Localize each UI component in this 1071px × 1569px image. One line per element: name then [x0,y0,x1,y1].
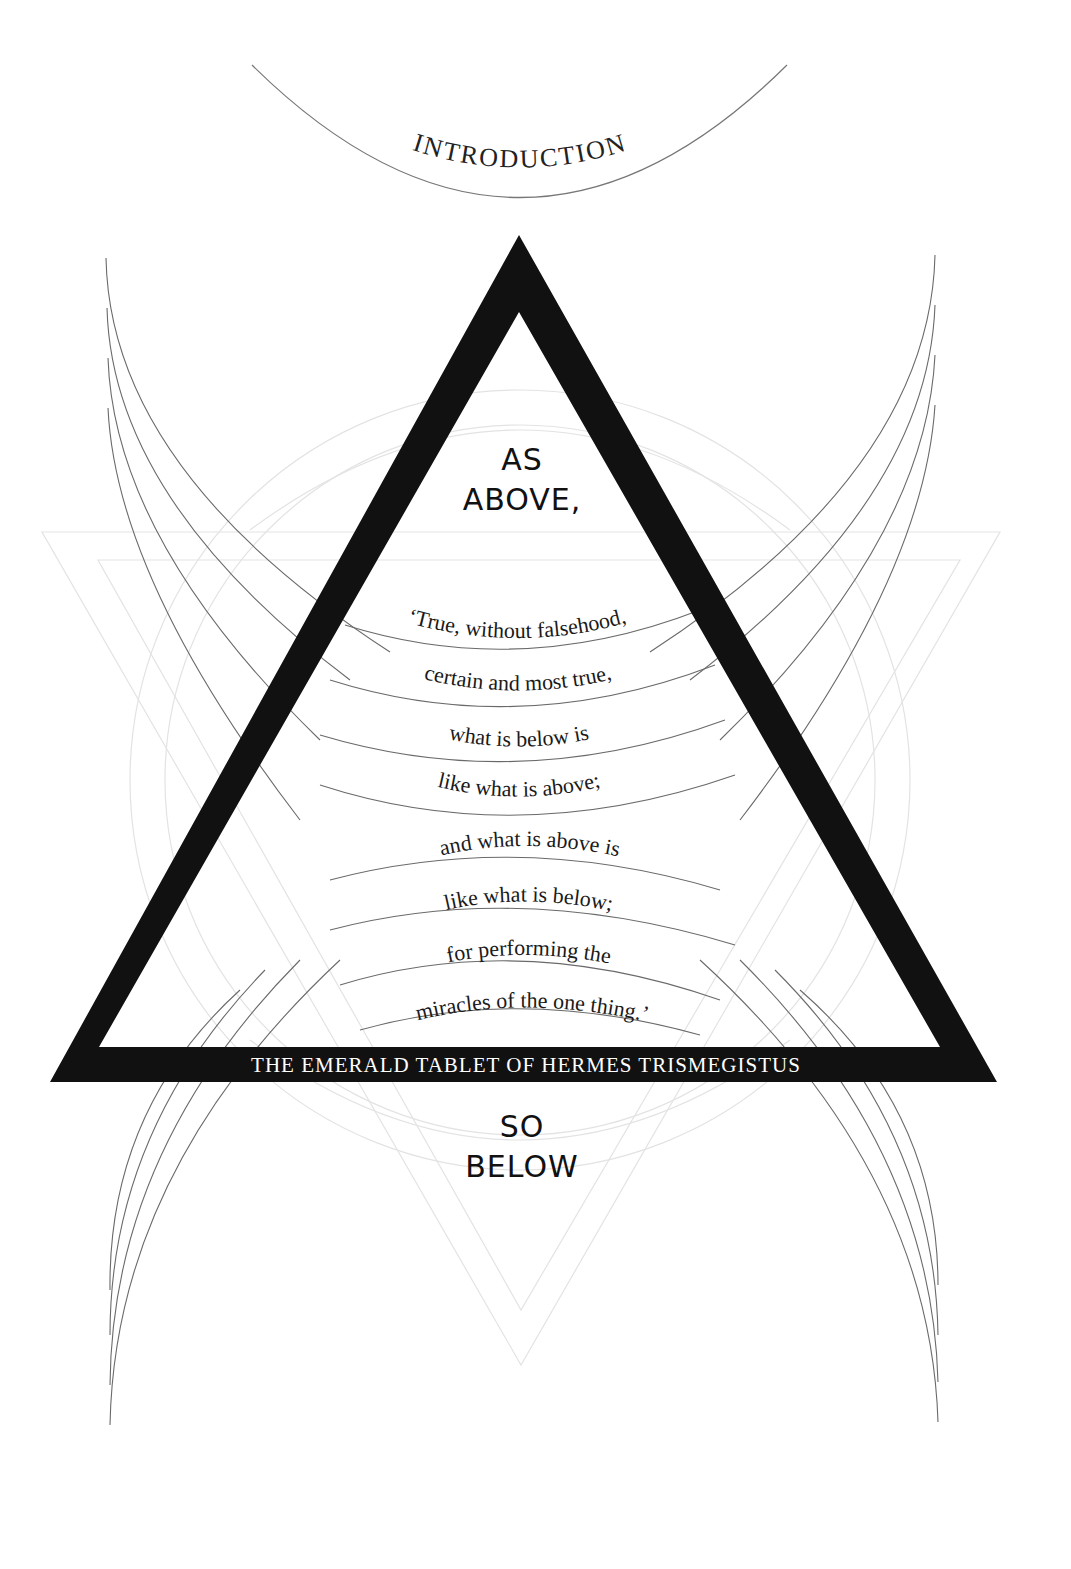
verse-line: like what is below; [442,881,616,915]
verse-line: what is below is [447,720,590,752]
verse-line: certain and most true, [422,660,613,696]
right-lower-arcs [700,960,938,1422]
verse-line: for performing the [444,935,613,968]
bottom-heading-line-1: SO [500,1109,545,1144]
verse-line: miracles of the one thing.’ [413,987,651,1026]
triangle-banner-title: THE EMERALD TABLET OF HERMES TRISMEGISTU… [251,1053,801,1077]
verse-line: ‘True, without falsehood, [406,603,629,643]
book-page: INTRODUCTION AS ABOVE, ‘True, without fa… [0,0,1071,1569]
verse-line: like what is above; [436,767,602,801]
section-title: INTRODUCTION [410,128,630,174]
bottom-heading-line-2: BELOW [465,1149,578,1184]
top-heading-line-1: AS [501,442,543,477]
emerald-tablet-diagram: INTRODUCTION AS ABOVE, ‘True, without fa… [0,0,1071,1569]
verse-line: and what is above is [437,826,622,861]
intro-arc-line [252,65,787,198]
top-heading-line-2: ABOVE, [463,482,582,517]
left-lower-arcs [110,960,340,1425]
